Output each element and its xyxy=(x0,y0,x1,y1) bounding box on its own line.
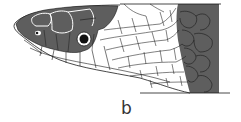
panel-label: b xyxy=(121,98,132,118)
head-dark-cap xyxy=(16,6,118,53)
dorsal-dark-band xyxy=(177,4,220,93)
